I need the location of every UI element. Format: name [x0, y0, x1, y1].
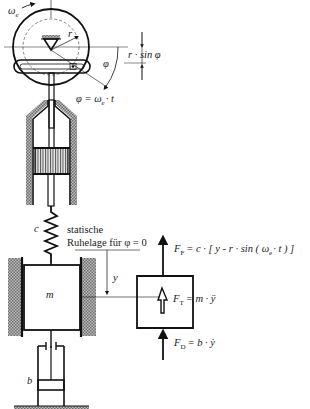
omega-e-label: ωe — [8, 5, 19, 19]
r-sin-phi-label: r · sin φ — [128, 49, 161, 60]
damper-b-label: b — [27, 375, 32, 386]
spring-force-equation: FF= c · [ y - r · sin ( ωe· t ) ] — [173, 243, 294, 257]
phi-equation-label: φ = ωe· t — [76, 93, 115, 107]
y-label: y — [112, 272, 118, 283]
phi-label: φ — [103, 58, 109, 69]
static-rest-label-line1: statische — [67, 224, 103, 235]
damper-force-equation: FD= b · ẏ — [173, 337, 215, 351]
radius-r-label: r — [68, 28, 73, 39]
free-body-diagram — [137, 240, 193, 360]
spring-c-label: c — [34, 223, 39, 234]
guide-cylinder — [26, 100, 77, 206]
mass-m-label: m — [46, 289, 54, 300]
static-rest-label-line2: Ruhelage für φ = 0 — [67, 237, 147, 248]
mechanical-oscillator-diagram: ωe r r · sin φ φ φ = ωe· t c statische R… — [0, 0, 310, 409]
inertia-force-equation: FT= m · ÿ — [172, 293, 216, 307]
damper-b — [14, 330, 89, 409]
spring-c — [45, 206, 57, 263]
